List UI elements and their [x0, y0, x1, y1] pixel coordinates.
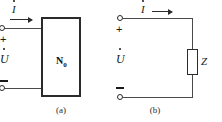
minus-sign-a — [0, 80, 8, 82]
impedance-z — [187, 49, 198, 75]
network-block-label: N0 — [56, 55, 67, 69]
network-block-n0: N0 — [41, 17, 81, 97]
wire-b-right-upper — [192, 18, 193, 49]
voltage-label-a: U — [0, 52, 9, 67]
plus-sign-b: + — [116, 24, 122, 35]
caption-b: (b) — [135, 105, 175, 115]
current-label-a: I — [12, 3, 16, 15]
terminal-b-bottom — [117, 94, 123, 100]
minus-sign-b — [116, 87, 124, 89]
wire-a-top — [5, 28, 41, 29]
wire-a-bottom — [5, 88, 41, 89]
wire-b-bottom — [123, 97, 193, 98]
wire-b-right-lower — [192, 75, 193, 98]
plus-sign-a: + — [0, 34, 6, 45]
panel-a: I + U N0 (a) — [0, 0, 111, 122]
circuit-figure: I + U N0 (a) Z I — [0, 0, 222, 122]
current-label-b: I — [141, 3, 145, 15]
current-arrow-b — [152, 11, 172, 12]
wire-b-top — [123, 18, 193, 19]
impedance-label-z: Z — [201, 55, 207, 67]
current-arrow-a — [10, 19, 32, 20]
voltage-label-b: U — [116, 52, 125, 67]
caption-a: (a) — [41, 105, 81, 115]
panel-b: Z I + U (b) — [111, 0, 222, 122]
